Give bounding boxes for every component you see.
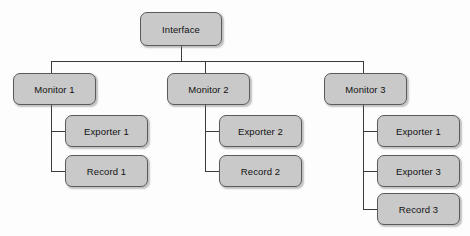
node-exporter-1-of-monitor-1[interactable]: Exporter 1 xyxy=(65,115,148,147)
edge-interface-stem xyxy=(181,46,182,62)
edge-monitor3-stub-1 xyxy=(363,131,378,132)
node-monitor-2-label: Monitor 2 xyxy=(188,84,229,95)
node-exporter-3-of-monitor-3[interactable]: Exporter 3 xyxy=(377,155,460,187)
edge-monitor1-stub-1 xyxy=(51,131,66,132)
edge-monitor2-stub-2 xyxy=(205,171,220,172)
edge-monitor1-spine xyxy=(51,105,52,172)
edge-monitor-bus xyxy=(51,61,364,62)
node-exporter-2-of-monitor-2-label: Exporter 2 xyxy=(238,126,283,137)
node-monitor-2[interactable]: Monitor 2 xyxy=(167,73,250,105)
edge-monitor1-stub-2 xyxy=(51,171,66,172)
node-exporter-3-of-monitor-3-label: Exporter 3 xyxy=(396,166,441,177)
node-record-1-of-monitor-1[interactable]: Record 1 xyxy=(65,155,148,187)
node-record-1-of-monitor-1-label: Record 1 xyxy=(87,166,126,177)
tree-diagram: Interface Monitor 1 Monitor 2 Monitor 3 … xyxy=(0,0,470,236)
node-record-2-of-monitor-2[interactable]: Record 2 xyxy=(219,155,302,187)
node-monitor-1-label: Monitor 1 xyxy=(34,84,75,95)
node-monitor-1[interactable]: Monitor 1 xyxy=(13,73,96,105)
node-exporter-1-of-monitor-1-label: Exporter 1 xyxy=(84,126,129,137)
edge-monitor2-stub-1 xyxy=(205,131,220,132)
node-monitor-3-label: Monitor 3 xyxy=(345,84,386,95)
node-monitor-3[interactable]: Monitor 3 xyxy=(324,73,407,105)
node-exporter-2-of-monitor-2[interactable]: Exporter 2 xyxy=(219,115,302,147)
edge-monitor3-stub-2 xyxy=(363,171,378,172)
edge-monitor3-stub-3 xyxy=(363,209,378,210)
edge-monitor3-spine xyxy=(363,105,364,210)
node-record-3-of-monitor-3[interactable]: Record 3 xyxy=(377,193,460,225)
node-record-2-of-monitor-2-label: Record 2 xyxy=(241,166,280,177)
node-interface-label: Interface xyxy=(162,24,200,35)
edge-bus-to-monitor2 xyxy=(205,61,206,73)
node-exporter-1-of-monitor-3-label: Exporter 1 xyxy=(396,126,441,137)
edge-monitor2-spine xyxy=(205,105,206,172)
edge-bus-to-monitor3 xyxy=(363,61,364,73)
node-exporter-1-of-monitor-3[interactable]: Exporter 1 xyxy=(377,115,460,147)
node-record-3-of-monitor-3-label: Record 3 xyxy=(399,204,438,215)
node-interface[interactable]: Interface xyxy=(140,12,222,46)
